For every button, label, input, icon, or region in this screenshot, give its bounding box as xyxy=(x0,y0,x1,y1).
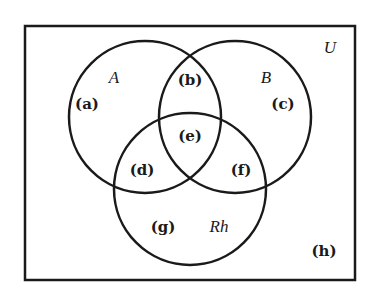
set-b-label: B xyxy=(261,68,272,87)
region-h-label: (h) xyxy=(311,242,336,260)
region-d-label: (d) xyxy=(130,161,155,179)
region-e-label: (e) xyxy=(178,127,202,145)
set-rh-label: Rh xyxy=(209,217,229,236)
region-g-label: (g) xyxy=(151,218,176,236)
region-c-label: (c) xyxy=(271,95,294,113)
region-f-label: (f) xyxy=(231,161,252,179)
venn-svg: U A B Rh (a) (b) (c) (d) (e) (f) (g) (h) xyxy=(0,0,372,298)
venn-diagram: U A B Rh (a) (b) (c) (d) (e) (f) (g) (h) xyxy=(0,0,372,298)
universe-label: U xyxy=(324,38,338,57)
region-a-label: (a) xyxy=(75,95,99,113)
region-b-label: (b) xyxy=(178,71,203,89)
universe-rectangle xyxy=(25,26,355,280)
set-a-label: A xyxy=(108,68,120,87)
